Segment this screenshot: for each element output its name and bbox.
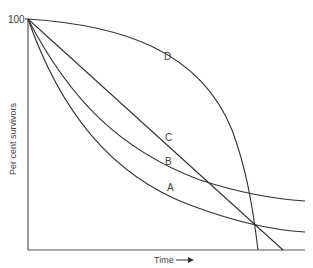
x-axis-label: Time — [154, 255, 174, 265]
curve-a-label: A — [167, 182, 174, 193]
curve-b — [28, 19, 305, 201]
y-tick-label-100: 100 — [8, 14, 25, 25]
curve-d — [28, 19, 258, 250]
curve-c-label: C — [165, 132, 172, 143]
arrow-right-icon — [176, 257, 194, 263]
y-axis-label: Per cent survivors — [8, 102, 18, 175]
curve-d-label: D — [164, 51, 171, 62]
curve-b-label: B — [165, 156, 172, 167]
survival-chart: 100 Per cent survivors Time D C B A — [0, 0, 313, 268]
curve-c — [28, 19, 283, 250]
